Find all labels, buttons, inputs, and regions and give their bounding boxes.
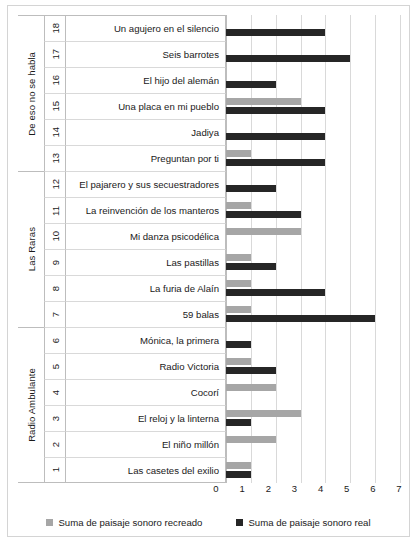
row-number-cell: 13 xyxy=(44,145,66,171)
row-number-cell: 2 xyxy=(44,431,66,457)
row-number-cell: 8 xyxy=(44,275,66,301)
group-label-3: Radio Ambulante xyxy=(18,327,44,483)
bar-real xyxy=(226,315,375,322)
category-label: Mi danza psicodélica xyxy=(130,231,219,242)
x-axis-tick-5: 5 xyxy=(344,483,349,494)
category-label-column: Un agujero en el silencioSeis barrotesEl… xyxy=(66,15,226,483)
row-number-text: 17 xyxy=(50,49,61,60)
row-number-text: 11 xyxy=(50,206,61,216)
group-label-column: De eso no se hablaLas RarasRadio Ambulan… xyxy=(18,15,44,483)
row-number-text: 10 xyxy=(50,231,61,242)
bar-row xyxy=(226,327,400,353)
bar-real xyxy=(226,263,276,270)
bar-recreado xyxy=(226,462,251,469)
legend-label-real: Suma de paisaje sonoro real xyxy=(248,517,370,528)
row-number-text: 7 xyxy=(50,312,61,317)
legend: Suma de paisaje sonoro recreado Suma de … xyxy=(8,511,409,533)
x-axis-tick-2: 2 xyxy=(266,483,271,494)
row-number-cell: 6 xyxy=(44,327,66,353)
bar-recreado xyxy=(226,280,251,287)
x-axis-tick-1: 1 xyxy=(239,483,244,494)
bar-row xyxy=(226,171,400,197)
row-number-cell: 1 xyxy=(44,457,66,483)
row-number-text: 12 xyxy=(50,179,61,190)
bar-recreado xyxy=(226,254,251,261)
category-cell: Las casetes del exilio xyxy=(66,457,226,483)
row-number-text: 6 xyxy=(50,338,61,343)
bar-recreado xyxy=(226,228,301,235)
bar-row xyxy=(226,457,400,483)
category-cell: Radio Victoria xyxy=(66,353,226,379)
bar-row xyxy=(226,223,400,249)
bar-recreado xyxy=(226,384,276,391)
gridline-7 xyxy=(400,15,401,483)
x-axis-tick-4: 4 xyxy=(318,483,323,494)
bar-row xyxy=(226,249,400,275)
group-label-2: Las Raras xyxy=(18,171,44,327)
row-number-cell: 11 xyxy=(44,197,66,223)
bar-row xyxy=(226,353,400,379)
bar-row xyxy=(226,93,400,119)
category-cell: Un agujero en el silencio xyxy=(66,15,226,41)
bar-real xyxy=(226,211,301,218)
row-number-cell: 9 xyxy=(44,249,66,275)
bar-row xyxy=(226,67,400,93)
legend-swatch-real-icon xyxy=(236,519,243,526)
category-cell: El reloj y la linterna xyxy=(66,405,226,431)
row-number-text: 16 xyxy=(50,75,61,86)
row-number-cell: 14 xyxy=(44,119,66,145)
row-number-text: 1 xyxy=(50,467,61,472)
bar-row xyxy=(226,41,400,67)
category-cell: Mi danza psicodélica xyxy=(66,223,226,249)
category-cell: La furia de Alaín xyxy=(66,275,226,301)
bar-real xyxy=(226,55,350,62)
row-number-cell: 4 xyxy=(44,379,66,405)
bar-real xyxy=(226,159,325,166)
x-axis-tick-6: 6 xyxy=(370,483,375,494)
row-number-cell: 15 xyxy=(44,93,66,119)
row-number-cell: 7 xyxy=(44,301,66,327)
bar-row xyxy=(226,431,400,457)
row-number-cell: 16 xyxy=(44,67,66,93)
bar-real xyxy=(226,107,325,114)
bar-real xyxy=(226,185,276,192)
row-number-text: 14 xyxy=(50,127,61,138)
bar-row xyxy=(226,15,400,41)
category-cell: 59 balas xyxy=(66,301,226,327)
bar-recreado xyxy=(226,202,251,209)
group-label-1: De eso no se habla xyxy=(18,15,44,171)
category-cell: Cocorí xyxy=(66,379,226,405)
row-number-cell: 18 xyxy=(44,15,66,41)
category-label: Mónica, la primera xyxy=(140,335,219,346)
category-cell: El pajarero y sus secuestradores xyxy=(66,171,226,197)
bar-real xyxy=(226,341,251,348)
bar-recreado xyxy=(226,410,301,417)
bar-row xyxy=(226,379,400,405)
category-cell: Las pastillas xyxy=(66,249,226,275)
bar-real xyxy=(226,29,325,36)
row-number-text: 15 xyxy=(50,101,61,112)
row-number-text: 3 xyxy=(50,416,61,421)
row-number-cell: 5 xyxy=(44,353,66,379)
category-label: Radio Victoria xyxy=(159,361,219,372)
category-label: 59 balas xyxy=(183,309,219,320)
row-number-text: 2 xyxy=(50,442,61,447)
category-label: Las casetes del exilio xyxy=(128,465,219,476)
bar-row xyxy=(226,301,400,327)
row-number-column: 181716151413121110987654321 xyxy=(44,15,66,483)
category-label: El pajarero y sus secuestradores xyxy=(79,179,219,190)
row-number-text: 9 xyxy=(50,260,61,265)
x-axis-tick-0: 0 xyxy=(213,483,218,494)
legend-item-real: Suma de paisaje sonoro real xyxy=(236,517,370,528)
category-label: El hijo del alemán xyxy=(143,75,219,86)
bar-row xyxy=(226,405,400,431)
legend-item-recreado: Suma de paisaje sonoro recreado xyxy=(46,517,202,528)
bar-real xyxy=(226,81,276,88)
group-label-text: Radio Ambulante xyxy=(26,368,37,442)
category-cell: Seis barrotes xyxy=(66,41,226,67)
category-cell: Jadiya xyxy=(66,119,226,145)
category-cell: Una placa en mi pueblo xyxy=(66,93,226,119)
legend-swatch-recreado-icon xyxy=(46,519,53,526)
bar-row xyxy=(226,119,400,145)
chart-container: De eso no se hablaLas RarasRadio Ambulan… xyxy=(7,5,410,537)
